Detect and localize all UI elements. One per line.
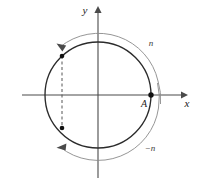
winding-arc-negative-label: −n: [145, 143, 156, 153]
circle-winding-diagram: y x A n −n: [0, 0, 197, 187]
upper-marked-point: [60, 54, 65, 59]
lower-marked-point: [60, 126, 65, 131]
point-a-label: A: [140, 98, 148, 109]
winding-arc-positive-group: [57, 33, 161, 104]
upper-arrowhead: [57, 44, 67, 52]
axes-group: [22, 6, 188, 178]
figure-container: y x A n −n: [0, 0, 197, 187]
winding-arc-positive-label: n: [149, 38, 154, 48]
y-axis-label: y: [82, 4, 88, 16]
x-axis-label: x: [184, 97, 190, 109]
point-a-marker: [148, 92, 153, 97]
lower-arrowhead: [57, 144, 67, 151]
y-axis-arrowhead: [94, 6, 101, 13]
